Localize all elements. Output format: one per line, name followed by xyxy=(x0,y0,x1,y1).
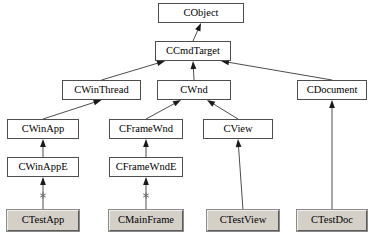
connector-e6 xyxy=(146,104,174,119)
asterisk-marker-e11 xyxy=(143,192,149,198)
connector-e4 xyxy=(228,62,332,80)
arrowhead-e12 xyxy=(236,139,242,147)
class-node-cwinappe: CWinAppE xyxy=(7,157,79,177)
connector-e1 xyxy=(193,30,198,41)
class-node-label: CTestView xyxy=(220,215,266,226)
class-node-label: CTestDoc xyxy=(311,215,353,226)
class-node-label: CCmdTarget xyxy=(166,46,220,57)
class-node-cwinthread: CWinThread xyxy=(62,80,141,100)
connector-e7 xyxy=(213,104,238,119)
class-node-cdocument: CDocument xyxy=(297,80,367,100)
arrowhead-e13 xyxy=(329,100,335,108)
class-node-label: CFrameWnd xyxy=(119,124,173,135)
class-node-label: CFrameWndE xyxy=(116,162,177,173)
connector-e2 xyxy=(102,63,158,80)
class-node-label: CWinThread xyxy=(74,85,128,96)
arrowhead-e9 xyxy=(143,139,149,147)
class-node-ccmdtarget: CCmdTarget xyxy=(155,41,231,61)
connector-e12 xyxy=(239,146,243,210)
class-node-cview: CView xyxy=(203,119,273,139)
arrowhead-e7 xyxy=(207,100,215,107)
class-node-ctestapp: CTestApp xyxy=(7,210,79,231)
arrowhead-e8 xyxy=(40,139,46,147)
connector-e5 xyxy=(43,102,94,119)
class-node-label: CView xyxy=(223,124,252,135)
arrowhead-e10 xyxy=(40,177,46,185)
arrowhead-e3 xyxy=(191,61,197,69)
class-node-label: CObject xyxy=(184,8,219,19)
class-node-label: CDocument xyxy=(307,85,358,96)
arrowhead-e5 xyxy=(93,100,102,106)
class-node-cwinapp: CWinApp xyxy=(7,119,79,139)
class-hierarchy-diagram: CObjectCCmdTargetCWinThreadCWndCDocument… xyxy=(0,0,369,237)
class-node-cframewnde: CFrameWndE xyxy=(109,157,183,177)
arrowhead-e2 xyxy=(157,61,165,67)
class-node-ctestview: CTestView xyxy=(207,210,279,231)
class-node-label: CMainFrame xyxy=(118,215,174,226)
class-node-label: CWinApp xyxy=(22,124,65,135)
arrowhead-e1 xyxy=(195,23,201,31)
arrowhead-e11 xyxy=(143,177,149,185)
asterisk-marker-e10 xyxy=(40,192,46,198)
class-node-cwnd: CWnd xyxy=(157,80,231,100)
arrowhead-e6 xyxy=(173,100,181,106)
class-node-cmainframe: CMainFrame xyxy=(109,210,183,231)
class-node-label: CTestApp xyxy=(22,215,64,226)
class-node-cobject: CObject xyxy=(158,3,244,23)
class-node-ctestdoc: CTestDoc xyxy=(297,210,367,231)
class-node-label: CWnd xyxy=(180,85,207,96)
class-node-cframewnd: CFrameWnd xyxy=(109,119,183,139)
class-node-label: CWinAppE xyxy=(18,162,67,173)
connector-e3 xyxy=(193,68,194,80)
